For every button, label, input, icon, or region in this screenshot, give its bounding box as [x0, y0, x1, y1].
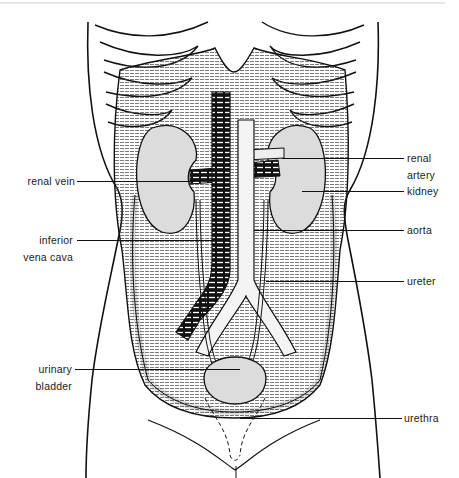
- label-renal-artery-line2: artery: [407, 167, 435, 184]
- label-urethra-text: urethra: [404, 412, 439, 424]
- label-bladder-line1: urinary: [5, 361, 72, 378]
- leader-inferior-vena-cava: [77, 240, 220, 241]
- leader-kidney: [302, 191, 404, 192]
- label-ivc-line2: vena cava: [5, 249, 73, 266]
- label-urinary-bladder: urinary bladder: [5, 361, 72, 395]
- leader-renal-artery: [282, 158, 404, 159]
- label-kidney: kidney: [407, 183, 439, 200]
- leader-aorta: [254, 230, 404, 231]
- leader-renal-vein: [77, 181, 195, 182]
- leader-urethra: [240, 418, 402, 419]
- label-ureter-text: ureter: [407, 275, 436, 287]
- leader-ureter: [266, 281, 404, 282]
- label-renal-vein-text: renal vein: [27, 175, 75, 187]
- label-aorta-text: aorta: [407, 224, 432, 236]
- label-kidney-text: kidney: [407, 185, 439, 197]
- urinary-bladder: [204, 357, 266, 404]
- label-inferior-vena-cava: inferior vena cava: [5, 232, 73, 266]
- label-urethra: urethra: [404, 410, 439, 427]
- leader-urinary-bladder: [75, 369, 240, 370]
- label-renal-artery: renal artery: [407, 150, 435, 184]
- label-renal-artery-line1: renal: [407, 150, 435, 167]
- label-ureter: ureter: [407, 273, 436, 290]
- label-renal-vein: renal vein: [5, 173, 75, 190]
- label-ivc-line1: inferior: [5, 232, 73, 249]
- label-aorta: aorta: [407, 222, 432, 239]
- label-bladder-line2: bladder: [5, 378, 72, 395]
